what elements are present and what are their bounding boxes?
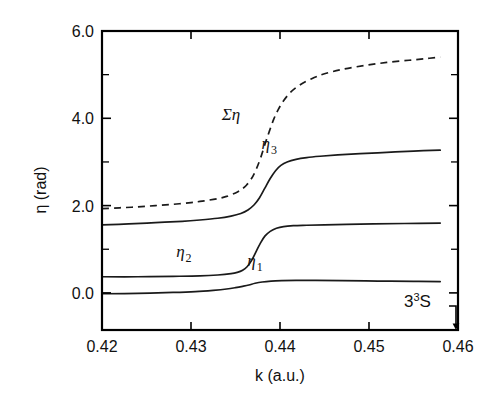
state-pointer-bracket [449, 306, 456, 326]
x-tick-label: 0.45 [353, 338, 384, 355]
y-tick-label: 0.0 [72, 285, 94, 302]
curves-group [102, 57, 440, 294]
y-tick-label: 2.0 [72, 198, 94, 215]
x-axis-title: k (a.u.) [255, 367, 305, 384]
curve-Ση [102, 57, 440, 208]
y-axis-title: η (rad) [32, 166, 49, 213]
curve-label-Ση: Ση [221, 105, 241, 124]
state-label: 33S [404, 291, 431, 311]
x-tick-label: 0.46 [442, 338, 473, 355]
curve-label-η₃: η3 [262, 134, 277, 157]
curve-label-η₁: η1 [247, 251, 262, 274]
x-tick-label: 0.43 [175, 338, 206, 355]
y-axis-ticks [102, 31, 458, 293]
y-tick-label: 4.0 [72, 110, 94, 127]
x-tick-label: 0.42 [86, 338, 117, 355]
state-annotation: 33S [404, 291, 459, 330]
curve-label-η₂: η2 [176, 242, 191, 265]
x-axis-ticks [102, 31, 458, 330]
curve-η₂ [102, 223, 440, 277]
plot-frame [102, 31, 458, 330]
y-axis-tick-labels: 0.02.04.06.0 [72, 23, 94, 302]
x-tick-label: 0.44 [264, 338, 295, 355]
curve-η₃ [102, 150, 440, 225]
phase-shift-figure: 0.420.430.440.450.46 0.02.04.06.0 Σηη3η2… [0, 0, 501, 403]
chart-canvas: 0.420.430.440.450.46 0.02.04.06.0 Σηη3η2… [0, 0, 501, 403]
y-tick-label: 6.0 [72, 23, 94, 40]
curve-labels: Σηη3η2η1 [176, 105, 277, 273]
x-axis-tick-labels: 0.420.430.440.450.46 [86, 338, 473, 355]
curve-η₁ [102, 280, 440, 293]
